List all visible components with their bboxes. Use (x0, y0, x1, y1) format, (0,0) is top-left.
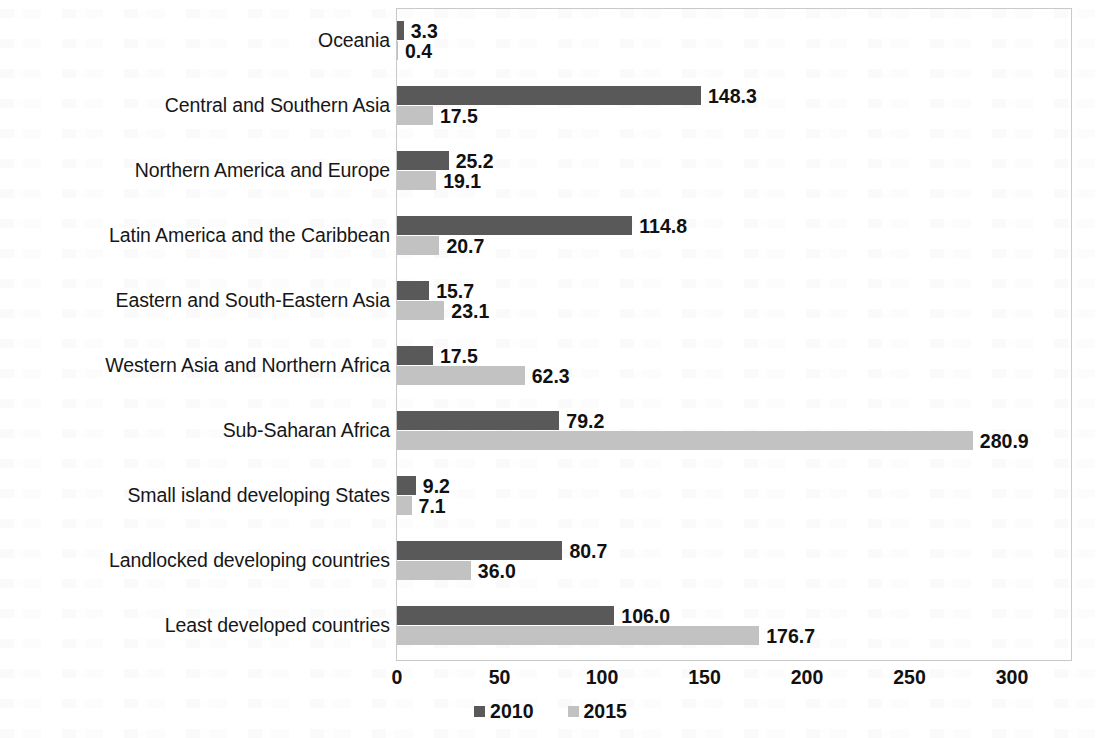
x-tick-label: 0 (392, 666, 403, 689)
x-tick-label: 100 (586, 666, 619, 689)
chart-row: Landlocked developing countries80.736.0 (0, 528, 1101, 593)
bar-2010 (397, 21, 404, 40)
bar-value-label: 36.0 (478, 562, 516, 582)
bar-value-label: 25.2 (456, 152, 494, 172)
bar-2015 (397, 366, 525, 385)
category-label: Least developed countries (165, 593, 390, 658)
chart-rows: Oceania3.30.4Central and Southern Asia14… (0, 8, 1101, 661)
bar-value-label: 80.7 (569, 542, 607, 562)
chart-row: Latin America and the Caribbean114.820.7 (0, 203, 1101, 268)
bar-value-label: 17.5 (440, 347, 478, 367)
chart-row: Northern America and Europe25.219.1 (0, 138, 1101, 203)
row-bars: 9.27.1 (397, 463, 1097, 528)
bar-2015 (397, 171, 436, 190)
legend-item-2015[interactable]: 2015 (568, 702, 627, 722)
category-label: Sub-Saharan Africa (223, 398, 390, 463)
category-label: Northern America and Europe (135, 138, 390, 203)
bar-2010 (397, 346, 433, 365)
bar-value-label: 15.7 (436, 282, 474, 302)
row-bars: 15.723.1 (397, 268, 1097, 333)
x-tick-label: 250 (893, 666, 926, 689)
bar-2010 (397, 476, 416, 495)
chart-row: Least developed countries106.0176.7 (0, 593, 1101, 658)
x-tick-label: 200 (791, 666, 824, 689)
bar-value-label: 106.0 (621, 607, 670, 627)
bar-2010 (397, 86, 701, 105)
bar-2010 (397, 606, 614, 625)
x-tick-label: 300 (996, 666, 1029, 689)
chart-row: Small island developing States9.27.1 (0, 463, 1101, 528)
category-label: Landlocked developing countries (109, 528, 390, 593)
chart-row: Eastern and South-Eastern Asia15.723.1 (0, 268, 1101, 333)
row-bars: 17.562.3 (397, 333, 1097, 398)
bar-value-label: 280.9 (980, 432, 1029, 452)
bar-value-label: 148.3 (708, 87, 757, 107)
bar-value-label: 7.1 (419, 497, 446, 517)
bar-value-label: 79.2 (566, 412, 604, 432)
bar-2015 (397, 561, 471, 580)
bar-2015 (397, 301, 444, 320)
category-label: Oceania (318, 8, 390, 73)
category-label: Central and Southern Asia (165, 73, 390, 138)
bar-2015 (397, 626, 759, 645)
chart-row: Oceania3.30.4 (0, 8, 1101, 73)
legend-label: 2010 (490, 702, 533, 722)
bar-2015 (397, 106, 433, 125)
bar-value-label: 17.5 (440, 107, 478, 127)
bar-2010 (397, 281, 429, 300)
bar-value-label: 9.2 (423, 477, 450, 497)
bar-value-label: 3.3 (411, 22, 438, 42)
row-bars: 80.736.0 (397, 528, 1097, 593)
chart-row: Central and Southern Asia148.317.5 (0, 73, 1101, 138)
bar-2015 (397, 496, 412, 515)
row-bars: 148.317.5 (397, 73, 1097, 138)
chart-row: Western Asia and Northern Africa17.562.3 (0, 333, 1101, 398)
horizontal-bar-chart: Oceania3.30.4Central and Southern Asia14… (0, 0, 1101, 738)
category-label: Eastern and South-Eastern Asia (115, 268, 390, 333)
bar-value-label: 0.4 (405, 42, 432, 62)
row-bars: 3.30.4 (397, 8, 1097, 73)
bar-value-label: 19.1 (443, 172, 481, 192)
legend-item-2010[interactable]: 2010 (474, 702, 533, 722)
bar-value-label: 23.1 (451, 302, 489, 322)
legend-swatch-icon (474, 706, 485, 717)
bar-2015 (397, 236, 439, 255)
row-bars: 79.2280.9 (397, 398, 1097, 463)
x-tick-label: 150 (688, 666, 721, 689)
bar-value-label: 62.3 (532, 367, 570, 387)
bar-value-label: 114.8 (639, 217, 687, 237)
bar-value-label: 20.7 (446, 237, 484, 257)
row-bars: 106.0176.7 (397, 593, 1097, 658)
category-label: Western Asia and Northern Africa (105, 333, 390, 398)
category-label: Small island developing States (127, 463, 390, 528)
x-tick-label: 50 (489, 666, 511, 689)
legend-swatch-icon (568, 706, 579, 717)
chart-row: Sub-Saharan Africa79.2280.9 (0, 398, 1101, 463)
chart-legend: 20102015 (0, 702, 1101, 722)
bar-2015 (397, 431, 973, 450)
bar-value-label: 176.7 (766, 627, 815, 647)
x-axis-tick-labels: 050100150200250300 (0, 666, 1101, 696)
legend-label: 2015 (584, 702, 627, 722)
bar-2010 (397, 216, 632, 235)
bar-2010 (397, 151, 449, 170)
bar-2010 (397, 411, 559, 430)
row-bars: 25.219.1 (397, 138, 1097, 203)
bar-2015 (397, 41, 398, 60)
category-label: Latin America and the Caribbean (109, 203, 390, 268)
row-bars: 114.820.7 (397, 203, 1097, 268)
bar-2010 (397, 541, 562, 560)
